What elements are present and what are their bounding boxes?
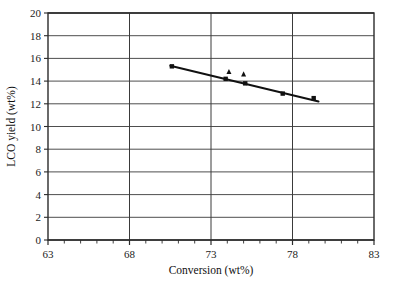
y-tick-label: 0 (36, 234, 42, 246)
x-axis-title: Conversion (wt%) (169, 264, 254, 277)
y-tick-label: 14 (30, 75, 42, 87)
y-tick-label: 4 (36, 189, 42, 201)
y-tick-label: 18 (30, 30, 42, 42)
x-tick-label: 78 (287, 248, 299, 260)
axis-ticks (44, 13, 374, 245)
data-point-square (243, 81, 247, 85)
scatter-plot-svg: 024681012141618206368737883 Conversion (… (0, 0, 396, 281)
x-tick-label: 73 (206, 248, 218, 260)
data-point-square (281, 91, 285, 95)
data-point-square (223, 77, 227, 81)
y-tick-label: 6 (36, 166, 42, 178)
x-tick-label: 68 (124, 248, 136, 260)
y-tick-label: 10 (30, 121, 42, 133)
chart-figure: 024681012141618206368737883 Conversion (… (0, 0, 396, 281)
y-tick-label: 2 (36, 211, 42, 223)
y-tick-label: 12 (30, 98, 41, 110)
data-point-square (170, 64, 174, 68)
x-tick-label: 83 (369, 248, 381, 260)
y-tick-label: 20 (30, 7, 42, 19)
data-point-square (311, 96, 315, 100)
axis-tick-labels: 024681012141618206368737883 (30, 7, 380, 260)
x-tick-label: 63 (43, 248, 55, 260)
data-point-triangle (241, 71, 246, 76)
gridlines (48, 13, 374, 240)
scan-artifact (2, 268, 4, 274)
y-axis-title: LCO yield (wt%) (5, 86, 18, 167)
data-point-triangle (226, 69, 231, 74)
y-tick-label: 16 (30, 52, 42, 64)
y-tick-label: 8 (36, 143, 42, 155)
